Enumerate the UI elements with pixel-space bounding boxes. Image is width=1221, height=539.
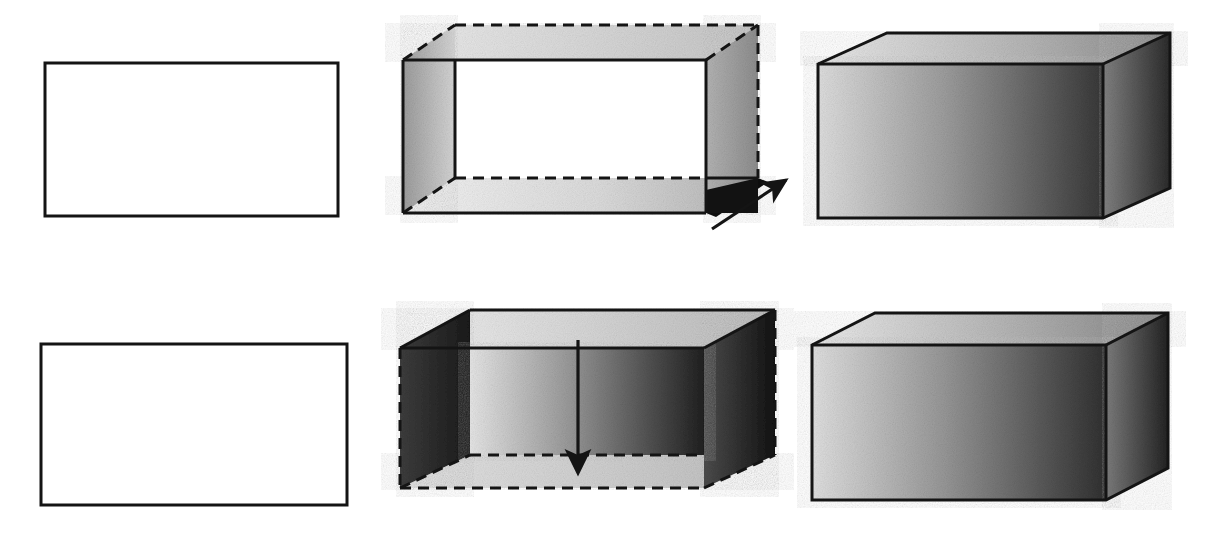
profile-rectangle [45,63,338,216]
panel-bottom-right-solid [812,313,1168,500]
panel-bottom-left-profile [41,344,347,505]
figure-canvas [0,0,1221,539]
panel-top-middle-open-box [403,25,786,229]
inner-top-face [403,25,758,60]
open-interior [455,60,706,178]
panel-top-left-profile [45,63,338,216]
extrusion-diagram [0,0,1221,539]
profile-rectangle [41,344,347,505]
panel-bottom-middle-open-box [400,310,775,488]
front-face [470,348,704,455]
panel-top-right-solid [818,33,1170,218]
front-face [818,64,1103,218]
front-face [812,345,1106,500]
